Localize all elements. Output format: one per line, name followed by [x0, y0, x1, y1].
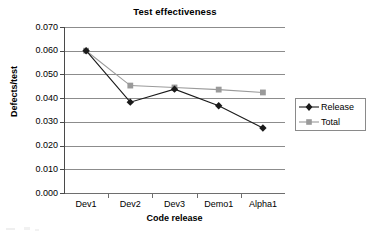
y-axis-line: [64, 27, 65, 194]
y-axis-tick: [60, 51, 64, 52]
y-axis-label: 0.010: [16, 165, 58, 174]
y-axis-tick: [60, 146, 64, 147]
y-axis-tick: [60, 122, 64, 123]
y-axis-tick: [60, 74, 64, 75]
chart-title: Test effectiveness: [64, 6, 286, 18]
legend-label-total: Total: [321, 117, 340, 128]
gridline: [64, 98, 285, 99]
y-axis-label: 0.070: [16, 23, 58, 32]
scan-artifact: [4, 225, 84, 233]
x-axis-label: Alpha1: [235, 199, 291, 210]
square-marker-icon: [299, 115, 319, 129]
chart-container: Test effectiveness Defects/test 0.0000.0…: [0, 0, 373, 239]
gridline: [64, 27, 285, 28]
legend-item-total[interactable]: Total: [299, 115, 365, 129]
legend: Release Total: [295, 98, 366, 131]
legend-item-release[interactable]: Release: [299, 100, 365, 114]
gridline: [64, 74, 285, 75]
plot-area: [64, 27, 285, 193]
y-axis-label: 0.050: [16, 70, 58, 79]
y-axis-label: 0.030: [16, 117, 58, 126]
y-axis-tick: [60, 193, 64, 194]
y-axis-tick: [60, 169, 64, 170]
x-axis-tick: [241, 194, 242, 198]
gridline: [64, 122, 285, 123]
gridline: [64, 146, 285, 147]
x-axis-tick: [197, 194, 198, 198]
y-axis-label: 0.000: [16, 189, 58, 198]
y-axis-label: 0.040: [16, 94, 58, 103]
x-axis-tick: [152, 194, 153, 198]
y-axis-tick: [60, 98, 64, 99]
gridline: [64, 51, 285, 52]
gridline: [64, 169, 285, 170]
gridline: [64, 193, 285, 194]
legend-label-release: Release: [321, 102, 354, 113]
x-axis-title: Code release: [64, 213, 285, 224]
y-axis-label: 0.020: [16, 141, 58, 150]
y-axis-tick: [60, 27, 64, 28]
diamond-marker-icon: [299, 100, 319, 114]
y-axis-label: 0.060: [16, 46, 58, 55]
x-axis-tick: [108, 194, 109, 198]
